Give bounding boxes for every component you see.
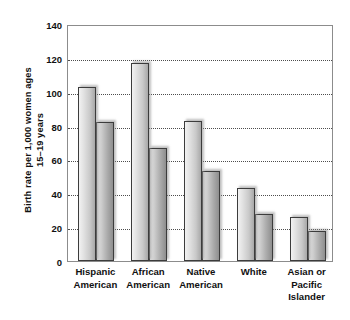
bar[interactable] xyxy=(78,87,96,261)
y-axis-tick-label: 40 xyxy=(30,189,62,200)
x-axis-category-labels: HispanicAmericanAfricanAmericanNativeAme… xyxy=(67,266,333,320)
bar[interactable] xyxy=(237,188,255,261)
y-axis-tick-label: 100 xyxy=(30,87,62,98)
x-axis-category-label-line: Islander xyxy=(267,291,347,304)
bar[interactable] xyxy=(96,122,114,261)
x-axis-category-label-line: Asian or xyxy=(267,266,347,279)
y-axis-tick-label: 120 xyxy=(30,53,62,64)
y-axis-tick-label: 140 xyxy=(30,20,62,31)
bar[interactable] xyxy=(290,217,308,261)
bar[interactable] xyxy=(202,171,220,261)
bar[interactable] xyxy=(149,148,167,261)
y-axis-tick-label: 20 xyxy=(30,223,62,234)
bar-group xyxy=(78,26,114,261)
bar-chart: Birth rate per 1,000 women ages 15–19 ye… xyxy=(0,0,350,320)
x-axis-category-label-line: American xyxy=(161,279,241,292)
y-axis-tick-label: 60 xyxy=(30,155,62,166)
bar[interactable] xyxy=(308,231,326,261)
bar[interactable] xyxy=(184,121,202,262)
bar-group xyxy=(131,26,167,261)
x-axis-category-label-line: Pacific xyxy=(267,279,347,292)
y-axis-tick-label: 80 xyxy=(30,121,62,132)
bar[interactable] xyxy=(255,214,273,261)
bar-group xyxy=(237,26,273,261)
bar[interactable] xyxy=(131,63,149,261)
plot-area xyxy=(67,25,333,262)
bar-group xyxy=(184,26,220,261)
bar-group xyxy=(290,26,326,261)
x-axis-category-label: Asian orPacificIslander xyxy=(267,266,347,304)
bars-layer xyxy=(68,26,332,261)
